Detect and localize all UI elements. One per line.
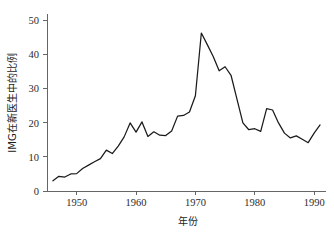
y-axis: 01020304050 bbox=[29, 14, 48, 197]
x-axis-tick-labels: 19501960197019801990 bbox=[66, 197, 324, 208]
y-tick-label: 40 bbox=[29, 49, 40, 60]
x-tick-label: 1990 bbox=[304, 197, 325, 208]
line-chart: 01020304050 19501960197019801990 IMG在新医生… bbox=[0, 0, 334, 232]
x-tick-label: 1960 bbox=[126, 197, 147, 208]
x-tick-label: 1950 bbox=[66, 197, 87, 208]
x-tick-label: 1980 bbox=[244, 197, 265, 208]
y-tick-label: 20 bbox=[29, 118, 40, 129]
y-tick-label: 30 bbox=[29, 83, 40, 94]
y-axis-title: IMG在新医生中的比例 bbox=[6, 53, 18, 152]
chart-container: 01020304050 19501960197019801990 IMG在新医生… bbox=[0, 0, 334, 232]
y-tick-label: 0 bbox=[34, 186, 39, 197]
x-axis: 19501960197019801990 bbox=[47, 191, 326, 208]
y-axis-tick-labels: 01020304050 bbox=[29, 15, 40, 196]
data-series-line bbox=[53, 33, 320, 181]
x-axis-title: 年份 bbox=[178, 215, 198, 227]
y-tick-label: 10 bbox=[29, 152, 40, 163]
y-tick-label: 50 bbox=[29, 15, 40, 26]
x-tick-label: 1970 bbox=[185, 197, 206, 208]
y-axis-ticks bbox=[43, 21, 47, 191]
x-axis-ticks bbox=[77, 191, 314, 195]
